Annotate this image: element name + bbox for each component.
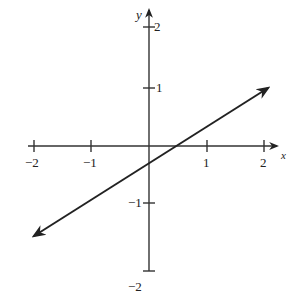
x-axis-label: x — [281, 150, 286, 161]
x-tick-label-2: 2 — [260, 156, 267, 169]
y-tick-label-1: 1 — [156, 81, 163, 94]
plotted-line — [34, 88, 268, 236]
x-tick-label-m1: −1 — [83, 156, 97, 169]
x-tick-label-m2: −2 — [25, 156, 39, 169]
y-tick-label-m1: −1 — [128, 196, 142, 209]
y-tick-label-2: 2 — [154, 20, 161, 33]
x-tick-label-1: 1 — [203, 156, 210, 169]
y-axis-label: y — [136, 8, 142, 21]
y-tick-label-m2: −2 — [128, 280, 142, 293]
